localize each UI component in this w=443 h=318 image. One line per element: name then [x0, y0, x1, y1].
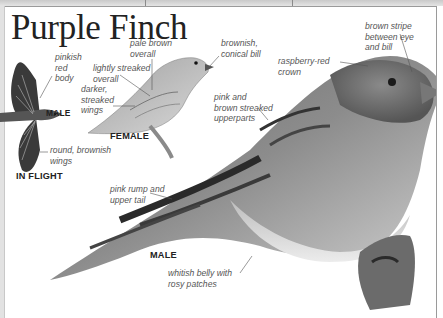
label-raspberry-red-crown: raspberry-red crown	[278, 56, 330, 77]
label-darker-streaked-wings: darker, streaked wings	[81, 84, 114, 116]
label-lightly-streaked-overall: lightly streaked overall	[93, 63, 150, 84]
tag-in-flight: IN FLIGHT	[16, 171, 63, 181]
tag-female: FEMALE	[110, 131, 149, 141]
label-round-brownish-wings: round, brownish wings	[50, 145, 111, 166]
label-pale-brown-overall: pale brown overall	[130, 38, 172, 59]
tag-male: MALE	[150, 250, 177, 260]
label-pink-brown-upperparts: pink and brown streaked upperparts	[214, 92, 273, 124]
label-brown-stripe: brown stripe between eye and bill	[365, 21, 414, 53]
label-pink-rump: pink rump and upper tail	[110, 184, 164, 205]
field-guide-page: Purple Finch pinkish red body MALE round…	[0, 0, 443, 318]
page-margin	[437, 6, 443, 318]
label-whitish-belly: whitish belly with rosy patches	[168, 268, 232, 289]
label-brownish-conical-bill: brownish, conical bill	[221, 38, 261, 59]
label-pinkish-red-body: pinkish red body	[55, 52, 82, 84]
tag-male-flight: MALE	[46, 108, 71, 118]
